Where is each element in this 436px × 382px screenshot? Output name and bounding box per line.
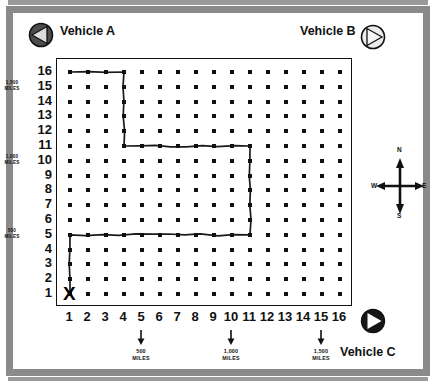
grid-dot xyxy=(140,100,144,104)
grid-dot xyxy=(122,70,126,74)
grid-dot xyxy=(176,292,180,296)
grid-dot xyxy=(140,114,144,118)
grid-dot xyxy=(104,174,108,178)
grid-dot xyxy=(302,292,306,296)
grid-dot xyxy=(320,248,324,252)
vehicle-b-label: Vehicle B xyxy=(300,24,356,38)
x-marker-arrow-icon xyxy=(316,330,326,346)
grid-dot xyxy=(194,203,198,207)
y-axis-tick: 5 xyxy=(30,227,52,240)
grid-dot xyxy=(176,277,180,281)
grid-dot xyxy=(86,248,90,252)
grid-dot xyxy=(176,262,180,266)
x-marker-unit: MILES xyxy=(132,355,149,361)
grid-dot xyxy=(338,100,342,104)
compass-south-label: S xyxy=(397,212,401,219)
grid-dot xyxy=(248,174,252,178)
grid-dot xyxy=(122,292,126,296)
compass-triangle-left-icon xyxy=(28,22,54,48)
grid-dot xyxy=(248,114,252,118)
grid-dot xyxy=(122,233,126,237)
grid-dot xyxy=(194,85,198,89)
grid-dot xyxy=(284,203,288,207)
grid-dot xyxy=(284,277,288,281)
grid-dot xyxy=(194,292,198,296)
grid-dot xyxy=(122,203,126,207)
x-marker-value: 1,500 xyxy=(314,348,329,354)
grid-dot xyxy=(266,144,270,148)
grid-dot xyxy=(266,277,270,281)
y-axis-tick: 2 xyxy=(30,271,52,284)
grid-dot xyxy=(122,248,126,252)
grid-dot xyxy=(104,85,108,89)
x-axis-tick: 2 xyxy=(78,310,96,323)
grid-dot xyxy=(338,203,342,207)
grid-dot xyxy=(104,218,108,222)
y-marker-unit: MILES xyxy=(4,234,19,239)
grid-dot xyxy=(86,277,90,281)
top-band xyxy=(8,0,428,5)
grid-dot xyxy=(266,248,270,252)
grid-dot xyxy=(158,262,162,266)
x-axis-tick: 1 xyxy=(60,310,78,323)
grid-dot xyxy=(194,70,198,74)
x-axis-tick: 16 xyxy=(330,310,348,323)
grid-dot xyxy=(266,70,270,74)
grid-dot xyxy=(266,174,270,178)
compass-triangle-right-filled-icon xyxy=(360,308,386,334)
x-axis: 12345678910111213141516500MILES1,000MILE… xyxy=(56,308,352,328)
grid-dot xyxy=(320,203,324,207)
grid-dot xyxy=(122,262,126,266)
grid-dot xyxy=(248,292,252,296)
grid-dot xyxy=(302,159,306,163)
grid-dot xyxy=(104,114,108,118)
grid-dot xyxy=(248,233,252,237)
y-marker-value: 500 xyxy=(8,228,16,233)
grid-dot xyxy=(104,129,108,133)
x-axis-tick: 15 xyxy=(312,310,330,323)
grid-dot xyxy=(338,174,342,178)
grid-dot xyxy=(230,114,234,118)
grid-dot xyxy=(284,262,288,266)
grid-dot xyxy=(212,277,216,281)
grid-dot xyxy=(284,70,288,74)
grid-dot xyxy=(320,100,324,104)
grid-dot xyxy=(104,70,108,74)
grid-dot xyxy=(266,129,270,133)
y-axis-distance-marker: 1,000MILES xyxy=(0,154,24,165)
grid-dot xyxy=(230,248,234,252)
grid-dot xyxy=(320,129,324,133)
grid-dot xyxy=(320,114,324,118)
grid-dot xyxy=(302,188,306,192)
grid-dot xyxy=(284,100,288,104)
grid-dot xyxy=(212,114,216,118)
grid-dot xyxy=(86,144,90,148)
grid-dot xyxy=(212,248,216,252)
grid-dot xyxy=(230,85,234,89)
grid-dot xyxy=(176,159,180,163)
grid-dot xyxy=(68,129,72,133)
grid-dot xyxy=(194,144,198,148)
grid-dot xyxy=(284,159,288,163)
grid-dot xyxy=(68,70,72,74)
y-axis-tick: 6 xyxy=(30,212,52,225)
grid-dot xyxy=(176,85,180,89)
grid-dot xyxy=(284,144,288,148)
grid-dot xyxy=(140,144,144,148)
grid-dot xyxy=(266,203,270,207)
grid-dot xyxy=(266,114,270,118)
grid-dot xyxy=(338,70,342,74)
grid-dot xyxy=(284,292,288,296)
grid-dot xyxy=(104,277,108,281)
y-axis-tick: 16 xyxy=(30,64,52,77)
compass-west-label: W xyxy=(371,182,377,189)
grid-dot xyxy=(122,144,126,148)
compass-north-label: N xyxy=(397,146,402,153)
grid-dot xyxy=(194,114,198,118)
grid-dot xyxy=(338,114,342,118)
x-axis-distance-marker: 1,500MILES xyxy=(299,348,343,363)
grid-dot xyxy=(230,144,234,148)
route-path xyxy=(57,59,353,307)
x-axis-tick: 7 xyxy=(168,310,186,323)
grid-dot xyxy=(338,188,342,192)
